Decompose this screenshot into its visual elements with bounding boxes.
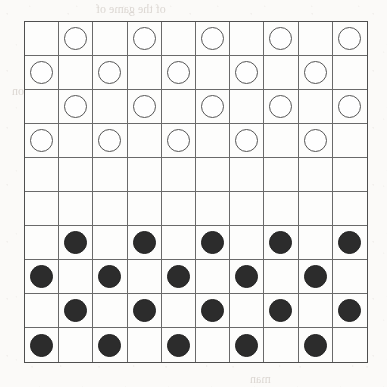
board-square-r10c5[interactable] [162, 328, 196, 362]
board-square-r4c9[interactable] [299, 124, 333, 158]
board-square-r10c8[interactable] [264, 328, 298, 362]
board-square-r2c6[interactable] [196, 56, 230, 90]
board-square-r6c1[interactable] [25, 192, 59, 226]
board-square-r2c7[interactable] [230, 56, 264, 90]
board-square-r5c2[interactable] [59, 158, 93, 192]
board-square-r9c9[interactable] [299, 294, 333, 328]
board-square-r6c2[interactable] [59, 192, 93, 226]
board-square-r8c1[interactable] [25, 260, 59, 294]
black-piece[interactable] [338, 231, 361, 254]
board-square-r6c6[interactable] [196, 192, 230, 226]
white-piece[interactable] [167, 129, 190, 152]
black-piece[interactable] [64, 231, 87, 254]
black-piece[interactable] [167, 334, 190, 357]
board-square-r5c10[interactable] [333, 158, 367, 192]
board-square-r4c6[interactable] [196, 124, 230, 158]
white-piece[interactable] [269, 27, 292, 50]
board-square-r4c7[interactable] [230, 124, 264, 158]
board-square-r8c2[interactable] [59, 260, 93, 294]
board-square-r5c9[interactable] [299, 158, 333, 192]
board-square-r5c8[interactable] [264, 158, 298, 192]
board-square-r4c10[interactable] [333, 124, 367, 158]
black-piece[interactable] [269, 231, 292, 254]
board-square-r9c3[interactable] [93, 294, 127, 328]
board-square-r4c8[interactable] [264, 124, 298, 158]
board-square-r9c1[interactable] [25, 294, 59, 328]
board-square-r7c7[interactable] [230, 226, 264, 260]
board-square-r5c1[interactable] [25, 158, 59, 192]
board-square-r8c3[interactable] [93, 260, 127, 294]
board-square-r7c8[interactable] [264, 226, 298, 260]
board-square-r1c6[interactable] [196, 22, 230, 56]
board-square-r7c9[interactable] [299, 226, 333, 260]
board-square-r5c5[interactable] [162, 158, 196, 192]
board-square-r8c9[interactable] [299, 260, 333, 294]
board-square-r5c3[interactable] [93, 158, 127, 192]
board-square-r3c1[interactable] [25, 90, 59, 124]
board-square-r8c4[interactable] [128, 260, 162, 294]
black-piece[interactable] [201, 231, 224, 254]
board-square-r4c2[interactable] [59, 124, 93, 158]
board-square-r2c2[interactable] [59, 56, 93, 90]
board-square-r3c3[interactable] [93, 90, 127, 124]
board-square-r3c4[interactable] [128, 90, 162, 124]
white-piece[interactable] [64, 95, 87, 118]
board-square-r3c6[interactable] [196, 90, 230, 124]
board-square-r1c10[interactable] [333, 22, 367, 56]
board-square-r3c10[interactable] [333, 90, 367, 124]
white-piece[interactable] [338, 27, 361, 50]
board-square-r6c9[interactable] [299, 192, 333, 226]
white-piece[interactable] [304, 61, 327, 84]
board-square-r4c5[interactable] [162, 124, 196, 158]
board-square-r2c3[interactable] [93, 56, 127, 90]
board-square-r10c6[interactable] [196, 328, 230, 362]
white-piece[interactable] [30, 129, 53, 152]
board-square-r6c5[interactable] [162, 192, 196, 226]
board-square-r1c4[interactable] [128, 22, 162, 56]
white-piece[interactable] [304, 129, 327, 152]
board-square-r8c7[interactable] [230, 260, 264, 294]
board-square-r1c9[interactable] [299, 22, 333, 56]
white-piece[interactable] [235, 61, 258, 84]
board-square-r7c2[interactable] [59, 226, 93, 260]
board-square-r10c3[interactable] [93, 328, 127, 362]
black-piece[interactable] [338, 299, 361, 322]
board-square-r4c1[interactable] [25, 124, 59, 158]
board-square-r8c6[interactable] [196, 260, 230, 294]
board-square-r9c4[interactable] [128, 294, 162, 328]
board-square-r3c8[interactable] [264, 90, 298, 124]
board-square-r7c1[interactable] [25, 226, 59, 260]
black-piece[interactable] [64, 299, 87, 322]
board-square-r2c1[interactable] [25, 56, 59, 90]
board-square-r2c4[interactable] [128, 56, 162, 90]
board-square-r10c2[interactable] [59, 328, 93, 362]
board-square-r9c2[interactable] [59, 294, 93, 328]
board-square-r1c3[interactable] [93, 22, 127, 56]
board-square-r6c7[interactable] [230, 192, 264, 226]
white-piece[interactable] [133, 27, 156, 50]
white-piece[interactable] [64, 27, 87, 50]
board-square-r3c9[interactable] [299, 90, 333, 124]
draughts-board[interactable] [24, 21, 368, 363]
white-piece[interactable] [133, 95, 156, 118]
black-piece[interactable] [133, 299, 156, 322]
board-square-r9c10[interactable] [333, 294, 367, 328]
black-piece[interactable] [304, 334, 327, 357]
board-square-r1c8[interactable] [264, 22, 298, 56]
board-square-r7c4[interactable] [128, 226, 162, 260]
white-piece[interactable] [167, 61, 190, 84]
black-piece[interactable] [30, 334, 53, 357]
board-square-r3c7[interactable] [230, 90, 264, 124]
white-piece[interactable] [269, 95, 292, 118]
board-square-r6c8[interactable] [264, 192, 298, 226]
white-piece[interactable] [30, 61, 53, 84]
board-square-r3c2[interactable] [59, 90, 93, 124]
white-piece[interactable] [98, 129, 121, 152]
black-piece[interactable] [98, 334, 121, 357]
board-square-r1c7[interactable] [230, 22, 264, 56]
board-square-r10c4[interactable] [128, 328, 162, 362]
board-square-r7c10[interactable] [333, 226, 367, 260]
black-piece[interactable] [98, 265, 121, 288]
board-square-r9c5[interactable] [162, 294, 196, 328]
board-square-r9c8[interactable] [264, 294, 298, 328]
